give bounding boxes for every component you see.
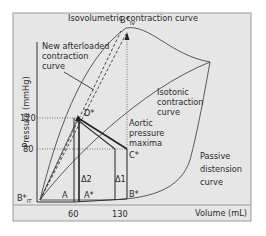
point-b-star-label: B* — [129, 189, 139, 199]
new-afterloaded-label-3: curve — [42, 61, 65, 71]
point-d-star-label: D* — [84, 108, 94, 118]
delta2-label: Δ2 — [81, 174, 92, 184]
point-c-star-label: C* — [129, 150, 139, 160]
point-a-star-label: A* — [84, 190, 94, 200]
y-axis-label: Pressure (mmHg) — [21, 76, 31, 147]
new-afterloaded-label-1: New afterloaded — [42, 41, 110, 51]
x-axis-label: Volume (mL) — [195, 208, 247, 218]
passive-label-1: Passive — [200, 151, 230, 161]
point-a-label: A — [62, 190, 68, 200]
y-tick-80: 80 — [23, 144, 33, 154]
aortic-label-2: pressure — [129, 128, 164, 138]
passive-label-2: distension — [200, 164, 242, 174]
x-tick-60: 60 — [68, 209, 78, 219]
pressure-volume-diagram: Pressure (mmHg) Volume (mL) 120 80 60 13… — [0, 0, 266, 236]
passive-label-3: curve — [200, 177, 223, 187]
isotonic-label-2: contraction — [157, 97, 203, 107]
y-tick-120: 120 — [20, 113, 36, 123]
isotonic-label-3: curve — [157, 107, 180, 117]
aortic-label-3: maxima — [129, 138, 162, 148]
new-afterloaded-label-2: contraction — [42, 51, 88, 61]
aortic-label-1: Aortic — [129, 118, 153, 128]
delta1-label: Δ1 — [115, 174, 126, 184]
isotonic-label-1: Isotonic — [157, 87, 189, 97]
x-tick-130: 130 — [112, 209, 128, 219]
